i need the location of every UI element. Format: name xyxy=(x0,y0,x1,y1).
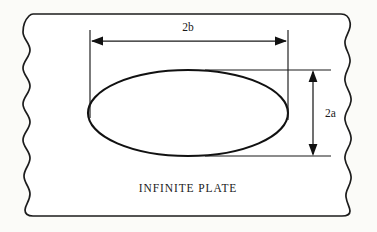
infinite-plate-figure: 2b 2a INFINITE PLATE xyxy=(0,0,377,232)
width-dimension-label: 2b xyxy=(182,21,194,33)
elliptical-hole xyxy=(88,70,288,156)
height-dimension-label: 2a xyxy=(325,107,336,119)
diagram-canvas: 2b 2a INFINITE PLATE xyxy=(0,0,377,232)
plate-caption: INFINITE PLATE xyxy=(139,182,238,194)
